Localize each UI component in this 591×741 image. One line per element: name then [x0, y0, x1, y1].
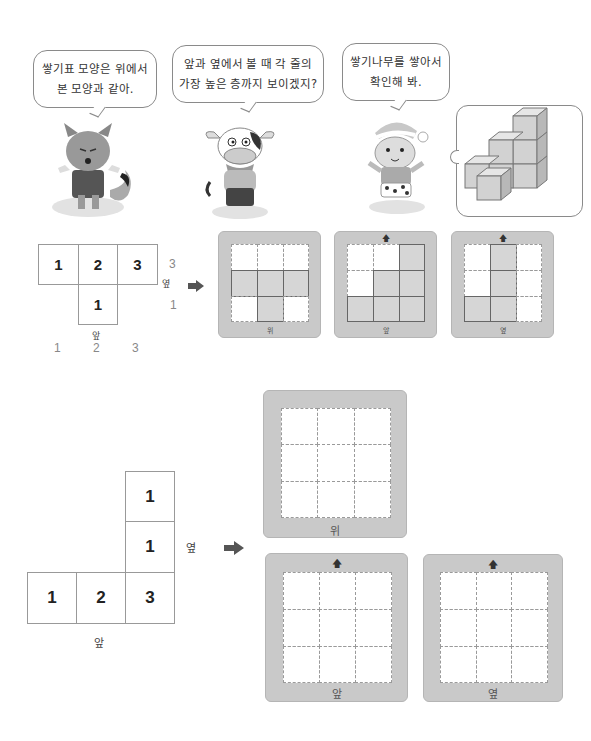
side-direction-label: 옆 — [162, 277, 170, 290]
front-height-label: 1 — [54, 341, 61, 355]
example-side-view-board: 🡅 옆 — [451, 231, 554, 338]
board-caption: 위 — [264, 522, 406, 538]
speech-bubble-cow: 앞과 옆에서 볼 때 각 줄의 가장 높은 층까지 보이겠지? — [172, 45, 324, 103]
front-height-label: 3 — [132, 341, 139, 355]
side-height-label: 3 — [169, 257, 176, 271]
table-cell: 1 — [27, 572, 77, 624]
cat-character-icon — [355, 115, 440, 215]
side-direction-label: 옆 — [186, 539, 196, 555]
board-caption: 옆 — [424, 685, 562, 701]
exercise-side-view-board[interactable]: 🡅 옆 — [423, 554, 563, 702]
blocks-illustration-bubble — [456, 105, 583, 217]
table-cell: 2 — [76, 572, 126, 624]
up-arrow-icon: 🡅 — [332, 556, 342, 573]
board-caption: 옆 — [452, 325, 553, 335]
speech-bubble-cat: 쌓기나무를 쌓아서 확인해 봐. — [342, 43, 450, 101]
table-cell: 1 — [78, 284, 118, 325]
bubble-text-line1: 쌓기표 모양은 위에서 — [34, 59, 156, 79]
exercise-top-view-board[interactable]: 위 — [263, 390, 407, 538]
table-cell: 1 — [38, 244, 79, 285]
right-arrow-icon — [224, 541, 244, 555]
bubble-tail — [450, 150, 459, 164]
table-cell: 2 — [78, 244, 118, 285]
exercise-front-view-board[interactable]: 🡅 앞 — [265, 553, 408, 702]
bubble-text-line2: 확인해 봐. — [343, 72, 449, 92]
bubble-text-line1: 쌓기나무를 쌓아서 — [343, 52, 449, 72]
front-height-label: 2 — [93, 341, 100, 355]
side-height-label: 1 — [170, 298, 177, 312]
example-front-view-board: 🡅 앞 — [334, 231, 437, 338]
board-caption: 앞 — [335, 325, 436, 335]
stacked-cubes-icon — [457, 106, 582, 216]
board-caption: 위 — [219, 325, 320, 335]
table-cell: 3 — [125, 572, 175, 624]
bubble-text-line2: 본 모양과 같아. — [34, 79, 156, 99]
example-top-view-board: 위 — [218, 231, 321, 338]
table-cell: 1 — [125, 521, 175, 573]
right-arrow-icon — [188, 280, 204, 292]
fox-character-icon — [40, 115, 140, 220]
table-cell: 3 — [117, 244, 158, 285]
speech-bubble-fox: 쌓기표 모양은 위에서 본 모양과 같아. — [33, 50, 157, 108]
answer-grid[interactable] — [281, 408, 391, 518]
answer-grid[interactable] — [440, 572, 548, 683]
front-direction-label: 앞 — [94, 634, 104, 650]
board-caption: 앞 — [266, 685, 407, 701]
bubble-text-line2: 가장 높은 층까지 보이겠지? — [173, 74, 323, 94]
answer-grid[interactable] — [283, 572, 392, 683]
cow-character-icon — [200, 120, 280, 220]
table-cell: 1 — [125, 471, 175, 522]
bubble-text-line1: 앞과 옆에서 볼 때 각 줄의 — [173, 54, 323, 74]
